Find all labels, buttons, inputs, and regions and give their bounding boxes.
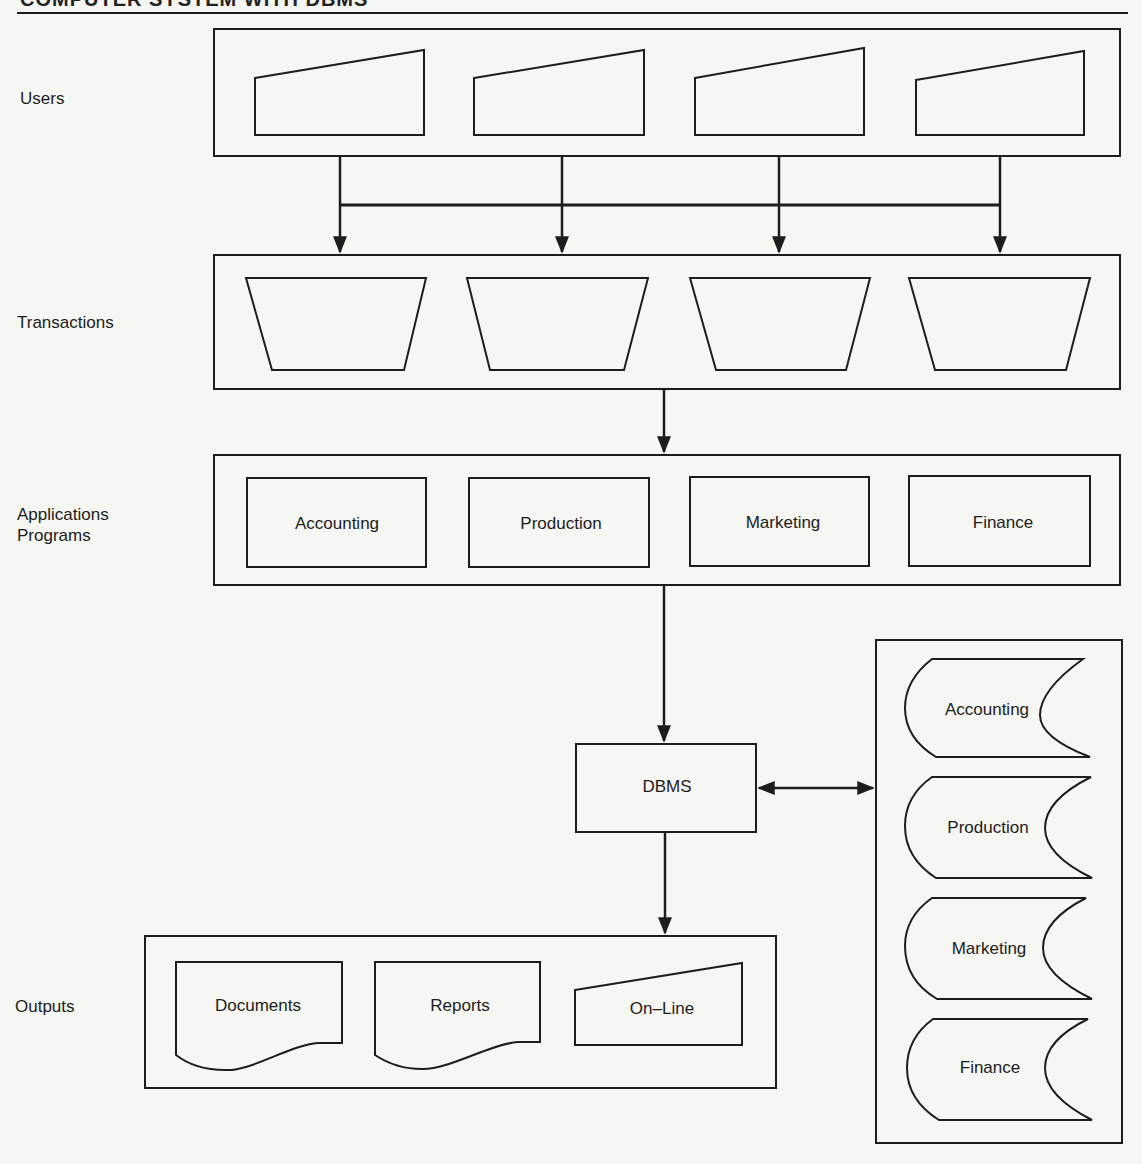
row-label-applications-line2: Programs: [17, 525, 109, 546]
program-label-accounting: Accounting: [295, 514, 379, 534]
dbms-flow-diagram: [0, 0, 1142, 1164]
terminal-icon: [474, 50, 644, 135]
program-label-marketing: Marketing: [746, 513, 821, 533]
terminal-icon: [255, 50, 424, 135]
output-label-reports: Reports: [430, 996, 490, 1016]
transaction-icon: [467, 278, 648, 370]
output-label-documents: Documents: [215, 996, 301, 1016]
output-label-online: On–Line: [630, 999, 694, 1019]
database-label-finance: Finance: [960, 1058, 1020, 1078]
terminal-icon: [916, 51, 1084, 135]
transactions-box: [214, 255, 1120, 389]
document-icon: [176, 962, 342, 1070]
row-label-transactions: Transactions: [17, 312, 114, 333]
transaction-icon: [909, 278, 1090, 370]
database-label-marketing: Marketing: [952, 939, 1027, 959]
terminal-icon: [695, 48, 864, 135]
row-label-users: Users: [20, 88, 64, 109]
database-label-accounting: Accounting: [945, 700, 1029, 720]
program-label-finance: Finance: [973, 513, 1033, 533]
dbms-label: DBMS: [642, 777, 691, 797]
row-label-outputs: Outputs: [15, 996, 75, 1017]
row-label-applications: Applications Programs: [17, 504, 109, 546]
row-label-applications-line1: Applications: [17, 504, 109, 525]
database-label-production: Production: [947, 818, 1028, 838]
transaction-icon: [246, 278, 426, 370]
users-box: [214, 29, 1120, 156]
program-label-production: Production: [520, 514, 601, 534]
transaction-icon: [690, 278, 870, 370]
